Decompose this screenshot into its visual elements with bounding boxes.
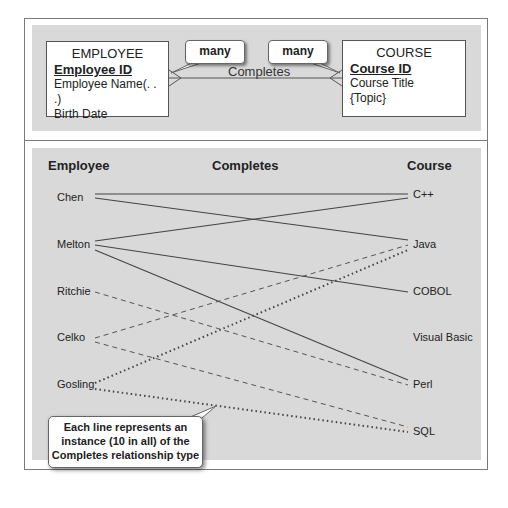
cardinality-callout-right: many [268,40,328,64]
employee-instance: Gosling [57,378,94,390]
course-instance: Perl [413,378,433,390]
cardinality-callout-left: many [185,40,245,64]
course-entity-title: COURSE [350,45,458,60]
relationship-column-header: Completes [212,158,278,173]
course-instance: SQL [413,425,435,437]
employee-instance: Celko [57,331,85,343]
course-attribute: {Topic} [350,91,458,106]
employee-primary-key: Employee ID [54,62,161,77]
course-instance: Java [413,238,436,250]
course-instance: C++ [413,188,434,200]
instance-note-callout: Each line represents an instance (10 in … [48,416,203,468]
course-attribute: Course Title [350,76,458,91]
course-instance: Visual Basic [413,331,473,343]
course-instance: COBOL [413,285,452,297]
course-primary-key: Course ID [350,61,458,76]
employee-entity: EMPLOYEE Employee ID Employee Name(. . .… [46,41,169,117]
course-column-header: Course [407,158,452,173]
employee-entity-title: EMPLOYEE [54,46,161,61]
employee-attribute: Birth Date [54,107,161,122]
link-ritchie-perl [95,292,408,385]
employee-instance: Melton [57,238,90,250]
relationship-label: Completes [228,64,290,79]
employee-column-header: Employee [48,158,109,173]
employee-attribute: Employee Name(. . .) [54,77,161,107]
employee-instance: Ritchie [57,285,91,297]
course-entity: COURSE Course ID Course Title {Topic} [342,40,466,117]
note-line: Completes relationship type [49,448,202,462]
note-line: Each line represents an [49,420,202,434]
employee-instance: Chen [57,191,83,203]
link-melton-cobol [95,245,408,292]
link-celko-sql [95,342,408,427]
note-line: instance (10 in all) of the [49,434,202,448]
link-celko-java [95,245,408,338]
